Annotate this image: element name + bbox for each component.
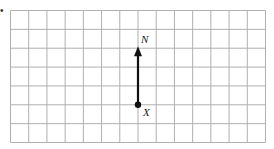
label-x: X — [142, 106, 151, 118]
grid-diagram: • N X — [0, 0, 274, 149]
point-x-dot — [135, 102, 141, 108]
label-n: N — [140, 33, 149, 45]
bullet-marker: • — [0, 5, 4, 16]
